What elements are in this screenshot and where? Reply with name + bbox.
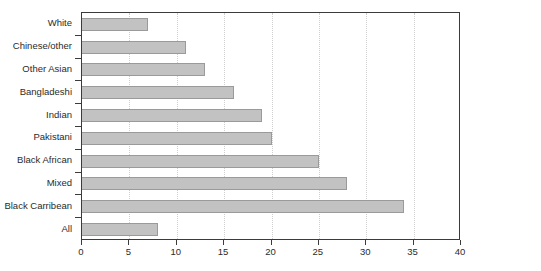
bar	[82, 155, 319, 168]
value-tick-label: 35	[407, 246, 418, 258]
value-axis-labels: 0510152025303540	[81, 246, 460, 260]
category-label: Black Carribean	[0, 201, 72, 211]
bar-row	[82, 127, 459, 150]
bar-series	[82, 13, 459, 239]
bar-row	[82, 36, 459, 59]
gridline	[461, 13, 462, 239]
value-tick	[318, 240, 319, 245]
bar	[82, 63, 205, 76]
bar-row	[82, 13, 459, 36]
value-tick	[128, 240, 129, 245]
bar	[82, 223, 158, 236]
value-tick-label: 0	[78, 246, 83, 258]
bar-row	[82, 59, 459, 82]
value-axis-ticks	[81, 240, 460, 245]
value-tick	[81, 240, 82, 245]
value-tick	[413, 240, 414, 245]
bar	[82, 41, 186, 54]
category-label: Mixed	[0, 178, 72, 188]
bar-row	[82, 81, 459, 104]
value-tick	[365, 240, 366, 245]
category-label: Chinese/other	[0, 41, 72, 51]
category-label: All	[0, 224, 72, 234]
bar-row	[82, 218, 459, 241]
category-axis-labels: WhiteChinese/otherOther AsianBangladeshi…	[0, 12, 72, 240]
value-tick	[223, 240, 224, 245]
bar	[82, 132, 272, 145]
bar	[82, 18, 148, 31]
bar	[82, 86, 234, 99]
value-tick	[460, 240, 461, 245]
category-label: Indian	[0, 110, 72, 120]
category-label: Pakistani	[0, 132, 72, 142]
value-tick-label: 20	[265, 246, 276, 258]
category-label: Other Asian	[0, 64, 72, 74]
value-tick-label: 40	[455, 246, 466, 258]
value-tick	[271, 240, 272, 245]
bar	[82, 177, 347, 190]
value-tick-label: 5	[126, 246, 131, 258]
value-tick-label: 15	[218, 246, 229, 258]
bar-row	[82, 195, 459, 218]
bar-chart: WhiteChinese/otherOther AsianBangladeshi…	[0, 0, 541, 271]
bar-row	[82, 104, 459, 127]
category-label: Black African	[0, 155, 72, 165]
bar-row	[82, 173, 459, 196]
bar-row	[82, 150, 459, 173]
bar	[82, 109, 262, 122]
value-tick	[176, 240, 177, 245]
bar	[82, 200, 404, 213]
category-label: White	[0, 18, 72, 28]
value-tick-label: 25	[313, 246, 324, 258]
plot-area	[81, 12, 460, 240]
value-tick-label: 10	[170, 246, 181, 258]
value-tick-label: 30	[360, 246, 371, 258]
category-label: Bangladeshi	[0, 87, 72, 97]
